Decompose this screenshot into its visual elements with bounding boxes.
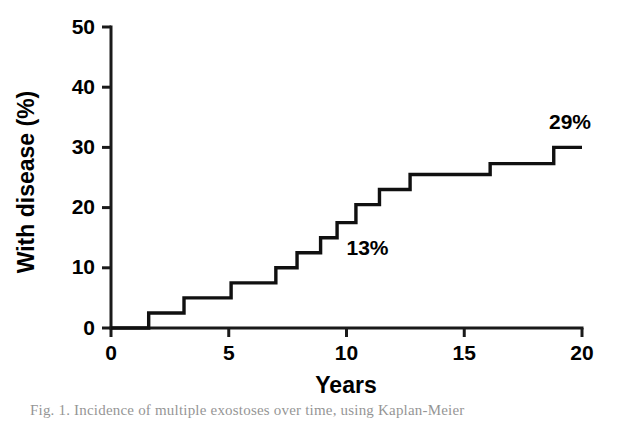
figure-caption-area: Fig. 1. Incidence of multiple exostoses …	[0, 404, 619, 421]
y-tick-label-10: 10	[72, 255, 95, 278]
y-axis-title: With disease (%)	[13, 91, 39, 274]
x-axis-tick-labels: 05101520	[105, 341, 594, 364]
y-axis-group: 01020304050	[72, 15, 111, 339]
kaplan-meier-chart: 01020304050 05101520 13%29% Years With d…	[0, 0, 619, 421]
x-tick-label-10: 10	[335, 341, 358, 364]
annotation-29pct: 29%	[549, 110, 591, 133]
y-tick-label-40: 40	[72, 75, 95, 98]
y-tick-label-0: 0	[83, 316, 95, 339]
x-tick-label-20: 20	[570, 341, 593, 364]
x-tick-label-5: 5	[223, 341, 235, 364]
annotation-13pct: 13%	[347, 236, 389, 259]
y-tick-label-50: 50	[72, 15, 95, 38]
y-axis-tick-labels: 01020304050	[72, 15, 95, 339]
data-annotations: 13%29%	[347, 110, 592, 258]
x-axis-title: Years	[315, 372, 376, 398]
x-tick-label-0: 0	[105, 341, 117, 364]
y-tick-label-30: 30	[72, 135, 95, 158]
y-tick-label-20: 20	[72, 195, 95, 218]
figure-caption: Fig. 1. Incidence of multiple exostoses …	[30, 404, 600, 419]
x-tick-label-15: 15	[453, 341, 477, 364]
figure-container: 01020304050 05101520 13%29% Years With d…	[0, 0, 619, 421]
x-axis-group: 05101520	[105, 328, 594, 364]
